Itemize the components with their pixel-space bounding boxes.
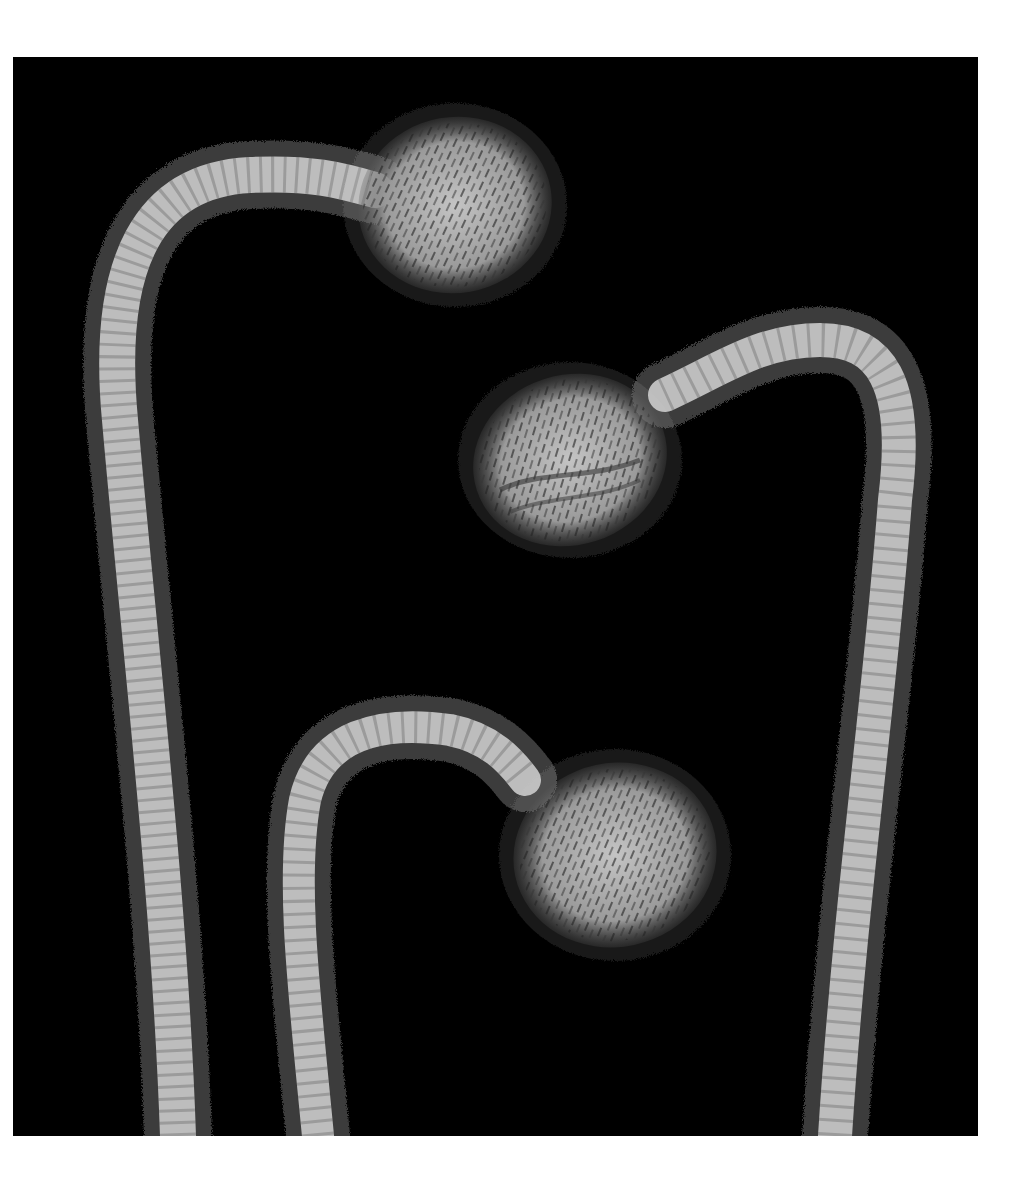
buds <box>343 101 734 966</box>
photograph <box>13 57 978 1136</box>
botanical-image <box>13 57 978 1136</box>
top-bud <box>343 101 567 308</box>
